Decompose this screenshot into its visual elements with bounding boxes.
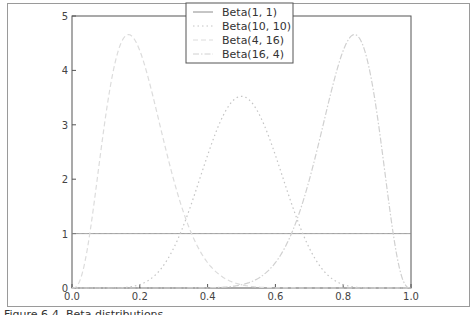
series-beta-10-10 bbox=[72, 96, 411, 288]
x-tick-label: 0.6 bbox=[267, 291, 283, 302]
x-axis: 0.0 0.2 0.4 0.6 0.8 1.0 bbox=[64, 284, 419, 302]
y-axis: 0 1 2 3 4 5 bbox=[62, 11, 76, 294]
x-tick-label: 1.0 bbox=[403, 291, 419, 302]
y-tick-label: 4 bbox=[62, 65, 68, 76]
legend-label: Beta(4, 16) bbox=[222, 34, 284, 47]
x-tick-label: 0.4 bbox=[200, 291, 216, 302]
y-tick-label: 1 bbox=[62, 229, 68, 240]
legend: Beta(1, 1) Beta(10, 10) Beta(4, 16) Beta… bbox=[186, 3, 293, 63]
x-tick-label: 0.8 bbox=[335, 291, 351, 302]
beta-chart: 0 1 2 3 4 5 0.0 0.2 0.4 0.6 0.8 1.0 Beta… bbox=[0, 0, 474, 315]
series-beta-4-16 bbox=[72, 35, 411, 288]
x-tick-label: 0.0 bbox=[64, 291, 80, 302]
legend-label: Beta(1, 1) bbox=[222, 6, 277, 19]
legend-label: Beta(16, 4) bbox=[222, 48, 284, 61]
y-tick-label: 5 bbox=[62, 11, 68, 22]
series-layer bbox=[72, 35, 411, 288]
y-tick-label: 3 bbox=[62, 120, 68, 131]
legend-label: Beta(10, 10) bbox=[222, 20, 291, 33]
series-beta-16-4 bbox=[72, 35, 411, 288]
x-tick-label: 0.2 bbox=[132, 291, 148, 302]
y-tick-label: 2 bbox=[62, 174, 68, 185]
figure-caption: Figure 6-4. Beta distributions bbox=[4, 309, 163, 315]
